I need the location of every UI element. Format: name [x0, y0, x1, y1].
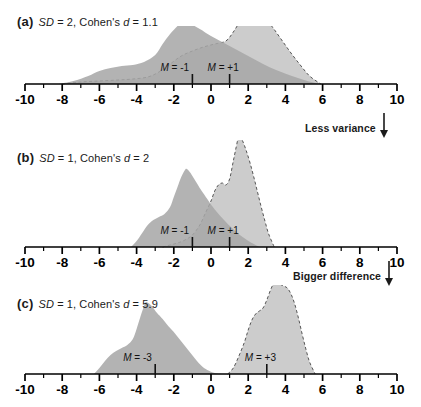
x-axis-tick-label: -4 [131, 92, 143, 107]
panel-b-d-value: = 2 [130, 152, 149, 164]
x-axis-tick-label: -10 [15, 255, 35, 270]
panel-c-sd-value: = 1, Cohen's [54, 298, 123, 310]
x-axis-tick-label: -2 [168, 92, 180, 107]
x-axis-tick-label: -10 [15, 92, 35, 107]
x-axis-tick-label: -10 [15, 382, 35, 397]
down-arrow-icon [378, 113, 390, 143]
annotation-bigger-difference-text: Bigger difference [293, 270, 381, 282]
panel-b-sd-symbol: SD [39, 152, 54, 164]
x-axis-tick-label: -8 [56, 255, 68, 270]
down-arrow-icon [383, 261, 395, 291]
x-axis-tick-label: 0 [207, 382, 215, 397]
x-axis-tick-label: 4 [282, 92, 290, 107]
x-axis-tick-label: 2 [244, 92, 252, 107]
panel-a-sd-value: = 2, Cohen's [54, 16, 123, 28]
panel-c-tag: (c) [17, 296, 34, 311]
panel-a-mean-left-label: M = -1 [160, 62, 189, 73]
panel-c-mean-right-label: M = +3 [245, 352, 276, 363]
annotation-bigger-difference: Bigger difference [293, 261, 395, 291]
effect-size-figure: (a)SD = 2, Cohen's d = 1.1 M = -1 M = +1… [0, 0, 421, 407]
distribution-dark-area-c [94, 302, 222, 374]
x-axis-tick-label: -6 [93, 92, 105, 107]
x-axis-tick-label: 2 [244, 382, 252, 397]
x-axis-tick-label: 4 [282, 382, 290, 397]
panel-c-sd-symbol: SD [39, 298, 54, 310]
panel-a-mean-right-label: M = +1 [208, 62, 239, 73]
panel-b-mean-left-label: M = -1 [160, 225, 189, 236]
x-axis-tick-label: -8 [56, 92, 68, 107]
panel-a-d-value: = 1.1 [129, 16, 157, 28]
x-axis-tick-label: 4 [282, 255, 290, 270]
panel-c-mean-left-label: M = -3 [123, 352, 152, 363]
x-axis-tick-label: 8 [356, 382, 364, 397]
x-axis-tick-label: -6 [93, 382, 105, 397]
annotation-less-variance-text: Less variance [305, 122, 376, 134]
x-axis-tick-label: 10 [389, 92, 404, 107]
x-axis-tick-label: -4 [131, 382, 143, 397]
panel-a-tag: (a) [17, 14, 34, 29]
panel-b-tag: (b) [17, 150, 34, 165]
x-axis-tick-label: -8 [56, 382, 68, 397]
annotation-less-variance: Less variance [305, 113, 390, 143]
x-axis-tick-label: -2 [168, 255, 180, 270]
x-axis-tick-label: 6 [319, 92, 327, 107]
panel-b-sd-value: = 1, Cohen's [55, 152, 124, 164]
panel-c-d-value: = 5.9 [129, 298, 157, 310]
x-axis-tick-label: 6 [319, 382, 327, 397]
panel-c-caption: (c)SD = 1, Cohen's d = 5.9 [17, 294, 158, 312]
panel-b-mean-right-label: M = +1 [208, 225, 239, 236]
x-axis-tick-label: -6 [93, 255, 105, 270]
x-axis-tick-label: 0 [207, 92, 215, 107]
panel-a-sd-symbol: SD [39, 16, 54, 28]
panel-c: (c)SD = 1, Cohen's d = 5.9 M = -3 M = +3… [0, 285, 421, 407]
x-axis-tick-label: -4 [131, 255, 143, 270]
x-axis-tick-label: -2 [168, 382, 180, 397]
x-axis-tick-label: 0 [207, 255, 215, 270]
panel-b-caption: (b)SD = 1, Cohen's d = 2 [17, 148, 149, 166]
x-axis-tick-label: 10 [389, 382, 404, 397]
x-axis-tick-label: 2 [244, 255, 252, 270]
x-axis-tick-label: 8 [356, 92, 364, 107]
panel-a-caption: (a)SD = 2, Cohen's d = 1.1 [17, 12, 158, 30]
